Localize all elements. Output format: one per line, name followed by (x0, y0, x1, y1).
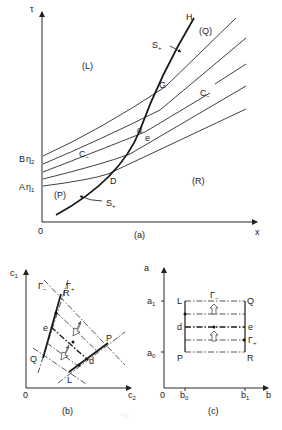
dot (55, 312, 58, 315)
point-e: e (248, 322, 253, 332)
region-l: (L) (82, 61, 93, 71)
point-h: H (186, 12, 193, 22)
tick-a-eta1: Aη1 (19, 182, 35, 193)
tick-b-eta2: Bη2 (19, 154, 35, 165)
gamma-minus-label: Γ− (210, 290, 219, 301)
panel-a-label: (a) (134, 230, 145, 240)
hollow-arrow-up-icon (210, 304, 218, 314)
point-d: d (177, 322, 182, 332)
characteristic-label: C− (79, 149, 90, 160)
point-r: R (63, 288, 70, 298)
dot (243, 339, 246, 342)
tick-b1: b1 (241, 390, 250, 401)
point-q: Q (30, 354, 37, 364)
panel-c: a b 0 (c) a1 a0 b0 b1 Γ− Γ+ L Q d e (144, 263, 271, 416)
point-l: L (177, 296, 182, 306)
figure-caption: Fig. (120, 412, 130, 418)
origin-label: 0 (38, 226, 43, 236)
tick-a1: a1 (147, 296, 156, 307)
dot (184, 313, 187, 316)
tick-a0: a0 (147, 348, 156, 359)
characteristic-line (43, 18, 236, 156)
hollow-arrow-icon (61, 345, 69, 360)
panel-b-label: (b) (62, 406, 73, 416)
region-r: (R) (192, 176, 205, 186)
point-d: D (110, 176, 117, 186)
shock-label-upper: S+ (152, 40, 162, 51)
characteristic-line (43, 109, 246, 186)
tau-axis-label: τ (30, 4, 34, 14)
characteristic-label: C− (200, 88, 211, 99)
point-r: R (247, 353, 254, 363)
gamma-plus-label: Γ+ (248, 335, 257, 346)
x-axis-label: x (255, 227, 260, 237)
shock-label-lower: S+ (106, 198, 116, 209)
gamma-minus-label: Γ− (38, 281, 47, 292)
characteristic-line (43, 93, 210, 172)
panel-c-label: (c) (208, 406, 219, 416)
c2-axis-label: c2 (128, 390, 137, 401)
hollow-arrow-icon (73, 321, 81, 336)
gamma-minus-line (44, 280, 125, 365)
region-q: (Q) (199, 26, 212, 36)
tick-b0: b0 (180, 390, 189, 401)
point-e: e (43, 323, 48, 333)
panel-b: c1 c2 0 (b) Γ− Γ+ R e Q P d L (10, 268, 137, 416)
point-p: P (177, 353, 183, 363)
point-l: L (67, 375, 72, 385)
dot (78, 364, 81, 367)
point-p: P (106, 333, 112, 343)
origin-label: 0 (160, 390, 165, 400)
point-d-small: d (137, 125, 142, 135)
figure-canvas: τ x 0 (a) Bη2 Aη1 (L) (Q) (P) (R) H G d … (0, 0, 282, 430)
hollow-arrow-up-icon (210, 331, 218, 341)
b-axis-label: b (266, 390, 271, 400)
region-p: (P) (54, 190, 66, 200)
panel-a: τ x 0 (a) Bη2 Aη1 (L) (Q) (P) (R) H G d … (19, 4, 260, 240)
c1-axis-label: c1 (10, 268, 19, 279)
internal-line-e-d (51, 327, 88, 360)
a-axis-label: a (144, 263, 149, 273)
characteristic-line (215, 64, 246, 84)
dot (213, 326, 216, 329)
point-d: d (89, 356, 94, 366)
dot (72, 341, 75, 344)
point-q: Q (247, 296, 254, 306)
origin-label: 0 (23, 390, 28, 400)
point-g: G (159, 80, 166, 90)
point-e: e (145, 133, 150, 143)
